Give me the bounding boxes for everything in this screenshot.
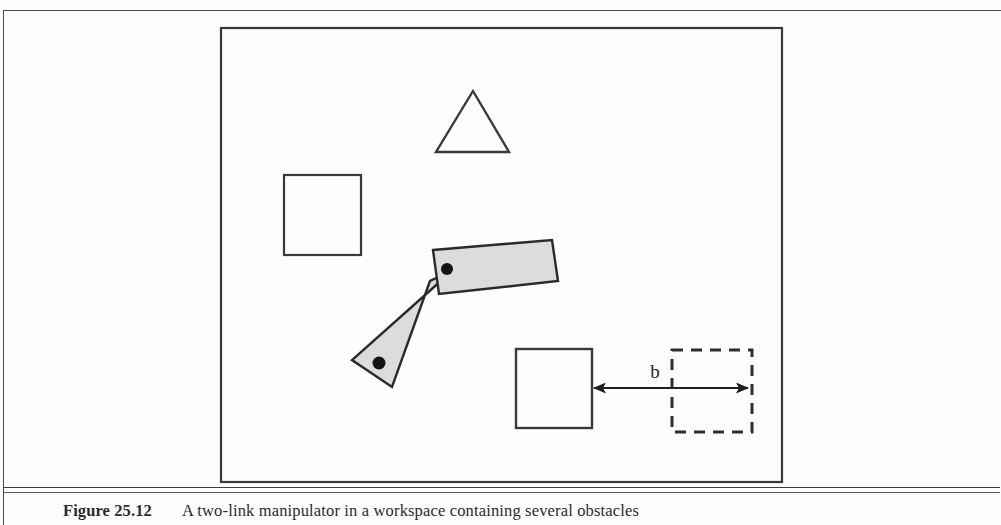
triangle-obstacle	[436, 91, 509, 152]
joint-elbow	[441, 263, 453, 275]
square-obstacle-upper-left	[284, 175, 361, 255]
link-1-lower-arm	[352, 271, 452, 387]
figure-canvas: b	[0, 0, 1001, 487]
joint-base	[373, 357, 386, 370]
dashed-goal-square	[672, 350, 752, 432]
figure-artwork: b	[0, 0, 1001, 487]
square-obstacle-lower	[516, 349, 592, 428]
dimension-label-b: b	[650, 361, 660, 382]
caption-text: A two-link manipulator in a workspace co…	[182, 501, 639, 520]
caption-label: Figure 25.12	[63, 501, 152, 520]
caption-rule-thin	[3, 492, 1000, 493]
figure-caption: Figure 25.12A two-link manipulator in a …	[63, 500, 993, 521]
scanned-page: b Figure 25.12A two-link manipulator in …	[0, 0, 1001, 525]
caption-separator-rule	[3, 487, 1000, 494]
caption-rule-thick	[3, 487, 1000, 488]
